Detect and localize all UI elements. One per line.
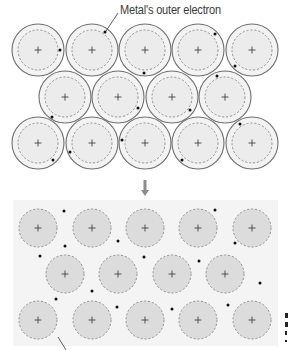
metal-atom	[119, 117, 171, 169]
electron	[234, 65, 237, 68]
metal-atom	[12, 24, 64, 76]
metal-atom	[119, 24, 171, 76]
electron	[214, 209, 217, 212]
electron	[171, 308, 174, 311]
positive-ion	[19, 301, 57, 339]
electron	[259, 282, 262, 285]
electron	[239, 123, 242, 126]
electron	[143, 72, 146, 75]
electron	[181, 159, 184, 162]
electron	[91, 290, 94, 293]
metal-atom	[172, 117, 224, 169]
electron	[216, 75, 219, 78]
electron	[117, 240, 120, 243]
electron	[214, 33, 217, 36]
positive-ion	[206, 255, 244, 293]
electron	[39, 255, 42, 258]
positive-ion	[73, 209, 111, 247]
electron	[63, 210, 66, 213]
electron	[51, 116, 54, 119]
positive-ion	[179, 209, 217, 247]
metal-atom	[199, 71, 251, 123]
metal-atom	[226, 24, 278, 76]
metal-atom	[66, 24, 118, 76]
top-lattice	[12, 24, 278, 169]
metal-atom	[12, 117, 64, 169]
positive-ion	[99, 255, 137, 293]
electron	[116, 306, 119, 309]
electron	[198, 260, 201, 263]
positive-ion	[73, 301, 111, 339]
metal-atom	[92, 71, 144, 123]
cropped-text-fragment	[285, 331, 287, 335]
electron	[189, 109, 192, 112]
electron	[59, 49, 62, 52]
positive-ion	[126, 301, 164, 339]
metallic-bonding-diagram: Metal's outer electron	[0, 0, 292, 350]
cropped-text-fragment	[285, 340, 287, 342]
positive-ion	[46, 255, 84, 293]
outer-electron-leader	[106, 13, 118, 31]
cropped-text-fragment	[285, 322, 288, 327]
electron	[55, 298, 58, 301]
positive-ion	[233, 301, 271, 339]
cropped-text-fragment	[285, 313, 288, 318]
positive-ion	[233, 209, 271, 247]
electron	[121, 139, 124, 142]
positive-ion	[153, 255, 191, 293]
electron	[234, 242, 237, 245]
positive-ion	[179, 301, 217, 339]
electron	[64, 245, 67, 248]
electron	[69, 151, 72, 154]
positive-ion	[19, 209, 57, 247]
metal-atom	[39, 71, 91, 123]
metal-atom	[172, 24, 224, 76]
electron	[143, 256, 146, 259]
metal-atom	[226, 117, 278, 169]
electron	[52, 159, 55, 162]
metal-atom	[146, 71, 198, 123]
down-arrow-icon	[141, 180, 149, 196]
outer-electron-label: Metal's outer electron	[120, 3, 221, 17]
electron	[137, 107, 140, 110]
metal-atom	[66, 117, 118, 169]
electron	[227, 304, 230, 307]
positive-ion	[126, 209, 164, 247]
diagram-canvas	[0, 0, 292, 350]
